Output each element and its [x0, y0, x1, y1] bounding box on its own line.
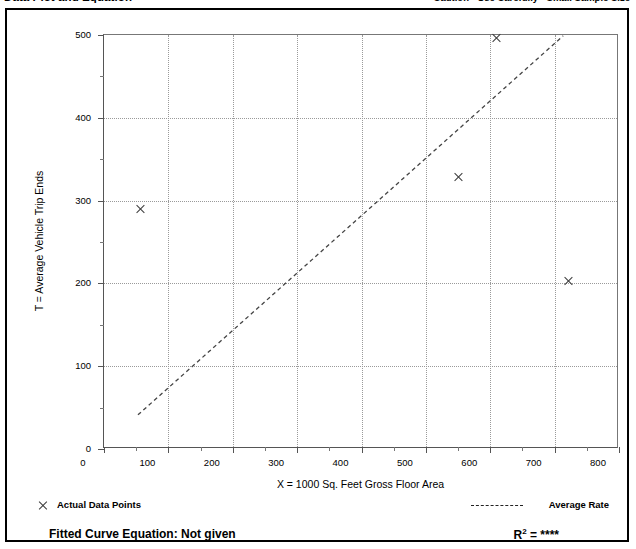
plot-area	[103, 34, 618, 448]
legend-item-average-rate: Average Rate	[549, 499, 609, 510]
tick-x-700	[555, 447, 556, 453]
page-title: Data Plot and Equation	[4, 0, 132, 3]
legend-item-actual-data-points: Actual Data Points	[57, 499, 141, 510]
r-squared-number: = ****	[530, 528, 559, 542]
tick-x-50	[136, 447, 137, 451]
x-tick-label-400: 400	[321, 457, 361, 468]
tick-x-250	[265, 447, 266, 451]
y-tick-label-100: 100	[51, 360, 91, 371]
tick-x-600	[490, 447, 491, 453]
average-rate-trendline	[104, 35, 617, 447]
tick-x-350	[329, 447, 330, 451]
data-point	[135, 203, 146, 214]
x-tick-label-700: 700	[514, 457, 554, 468]
x-axis-title: X = 1000 Sq. Feet Gross Floor Area	[103, 478, 618, 490]
equation-row: Fitted Curve Equation: Not given R2 = **…	[7, 525, 631, 549]
fitted-curve-equation: Fitted Curve Equation: Not given	[49, 527, 236, 541]
x-tick-label-0: 0	[63, 457, 103, 468]
chart-legend: Actual Data Points Average Rate	[7, 495, 631, 517]
r-squared-symbol: R	[514, 528, 523, 542]
x-tick-label-800: 800	[578, 457, 618, 468]
tick-x-750	[587, 447, 588, 451]
y-axis-title: T = Average Vehicle Trip Ends	[33, 34, 49, 448]
y-tick-label-400: 400	[51, 111, 91, 122]
tick-x-450	[394, 447, 395, 451]
y-tick-label-0: 0	[51, 442, 91, 453]
r-squared-exponent: 2	[522, 527, 526, 536]
x-tick-label-500: 500	[385, 457, 425, 468]
data-point	[453, 172, 464, 183]
tick-x-500	[426, 447, 427, 453]
tick-x-0	[104, 447, 105, 453]
x-marker-icon	[37, 500, 48, 511]
tick-x-650	[522, 447, 523, 451]
tick-x-100	[168, 447, 169, 453]
x-tick-label-100: 100	[127, 457, 167, 468]
data-point	[563, 275, 574, 286]
tick-x-550	[458, 447, 459, 451]
x-tick-label-300: 300	[256, 457, 296, 468]
page-header-strip: Data Plot and Equation Caution - Use Car…	[0, 0, 636, 8]
tick-x-400	[362, 447, 363, 453]
dashed-line-icon	[471, 505, 523, 506]
y-tick-label-300: 300	[51, 194, 91, 205]
data-point	[491, 32, 502, 43]
caution-note: Caution - Use Carefully - Small Sample S…	[434, 0, 630, 3]
tick-x-300	[297, 447, 298, 453]
r-squared-value: R2 = ****	[514, 527, 560, 542]
tick-x-800	[619, 447, 620, 453]
x-tick-label-600: 600	[449, 457, 489, 468]
chart-frame: T = Average Vehicle Trip Ends	[5, 8, 629, 542]
y-tick-label-200: 200	[51, 277, 91, 288]
tick-x-150	[201, 447, 202, 451]
x-tick-label-200: 200	[192, 457, 232, 468]
tick-x-200	[233, 447, 234, 453]
y-tick-label-500: 500	[51, 29, 91, 40]
